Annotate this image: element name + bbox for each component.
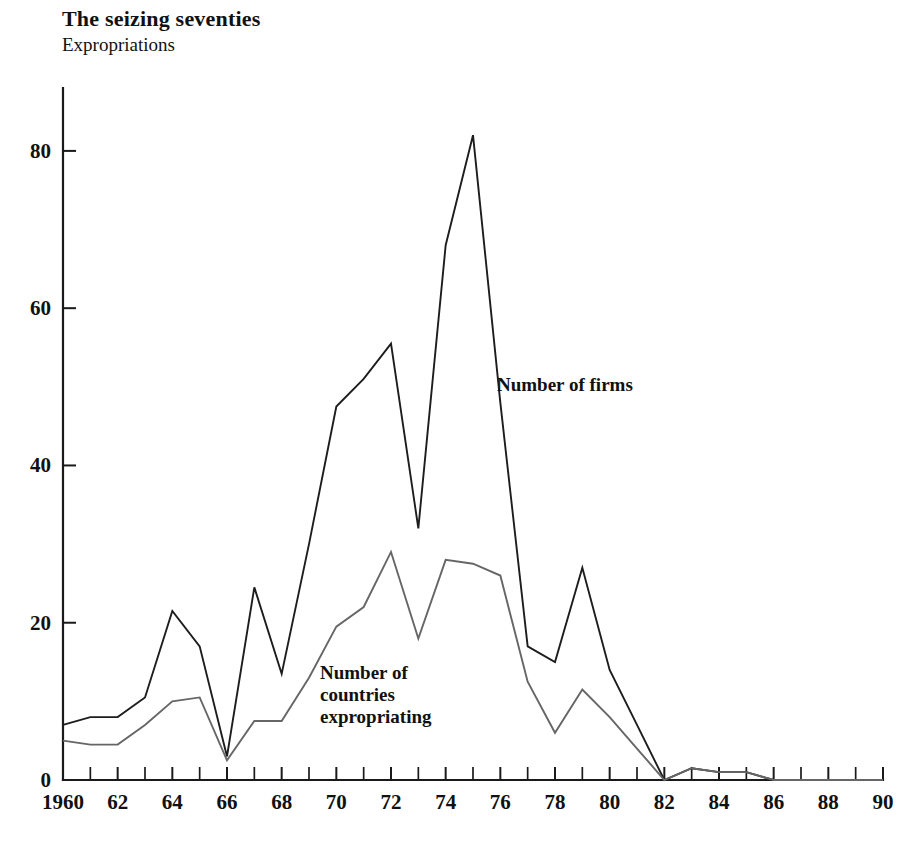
x-axis-tick-label: 82: [654, 790, 675, 814]
x-axis-tick-label: 74: [435, 790, 457, 814]
x-axis-tick-label: 86: [763, 790, 784, 814]
x-axis-tick-label: 70: [326, 790, 347, 814]
x-axis-tick-label: 72: [381, 790, 402, 814]
axes-group: 0204060801960626466687072747678808284868…: [30, 88, 894, 814]
series-line-firms: [63, 135, 883, 780]
y-axis-tick-label: 60: [30, 296, 51, 320]
line-chart-canvas: 0204060801960626466687072747678808284868…: [0, 0, 898, 841]
x-axis-tick-label: 64: [162, 790, 184, 814]
x-axis-tick-label: 84: [709, 790, 731, 814]
chart-figure: The seizing seventies Expropriations 020…: [0, 0, 898, 841]
x-axis-tick-label: 80: [599, 790, 620, 814]
y-axis-tick-label: 0: [41, 768, 52, 792]
y-axis-tick-label: 20: [30, 611, 51, 635]
y-axis-tick-label: 80: [30, 139, 51, 163]
series-line-countries: [63, 552, 883, 780]
x-axis-tick-label: 66: [217, 790, 238, 814]
y-axis-tick-label: 40: [30, 453, 51, 477]
series-label-countries: Number of countries expropriating: [320, 662, 432, 729]
series-group: [63, 135, 883, 780]
x-axis-tick-label: 78: [545, 790, 566, 814]
x-axis-tick-label: 88: [818, 790, 839, 814]
x-axis-tick-label: 1960: [42, 790, 84, 814]
series-label-firms: Number of firms: [497, 374, 633, 396]
x-axis-tick-label: 90: [873, 790, 894, 814]
x-axis-tick-label: 76: [490, 790, 511, 814]
x-axis-tick-label: 68: [271, 790, 292, 814]
x-axis-tick-label: 62: [107, 790, 128, 814]
